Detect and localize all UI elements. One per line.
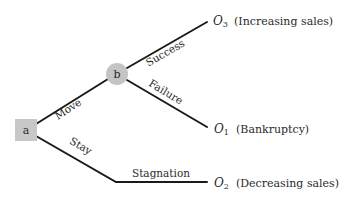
outcome-o1-symbol: O xyxy=(214,122,224,136)
outcome-o2: O2 (Decreasing sales) xyxy=(214,176,339,191)
decision-node-a: a xyxy=(15,119,37,141)
outcome-o1-description: (Bankruptcy) xyxy=(236,123,309,136)
chance-node-label: b xyxy=(113,68,120,81)
outcome-o3-subscript: 3 xyxy=(223,20,228,29)
edge-label-stay: Stay xyxy=(68,134,95,156)
svg-text:O1: O1 xyxy=(214,122,229,137)
decision-tree-diagram: a b Move Success Failure Stay Stagnation… xyxy=(0,0,342,199)
outcome-o2-symbol: O xyxy=(214,176,224,190)
outcome-o3-symbol: O xyxy=(213,14,223,28)
edge-label-move: Move xyxy=(52,96,83,122)
outcome-o1: O1 (Bankruptcy) xyxy=(214,122,309,137)
outcome-o3: O3 (Increasing sales) xyxy=(213,14,333,29)
chance-node-b: b xyxy=(106,63,128,85)
outcome-o1-subscript: 1 xyxy=(224,128,229,137)
outcome-o2-subscript: 2 xyxy=(224,182,229,191)
svg-text:O3: O3 xyxy=(213,14,228,29)
edge-label-success: Success xyxy=(144,37,187,69)
svg-text:O2: O2 xyxy=(214,176,229,191)
outcome-o3-description: (Increasing sales) xyxy=(234,15,333,28)
edge-label-stagnation: Stagnation xyxy=(132,167,190,179)
decision-node-label: a xyxy=(23,124,30,137)
outcome-o2-description: (Decreasing sales) xyxy=(236,177,339,190)
